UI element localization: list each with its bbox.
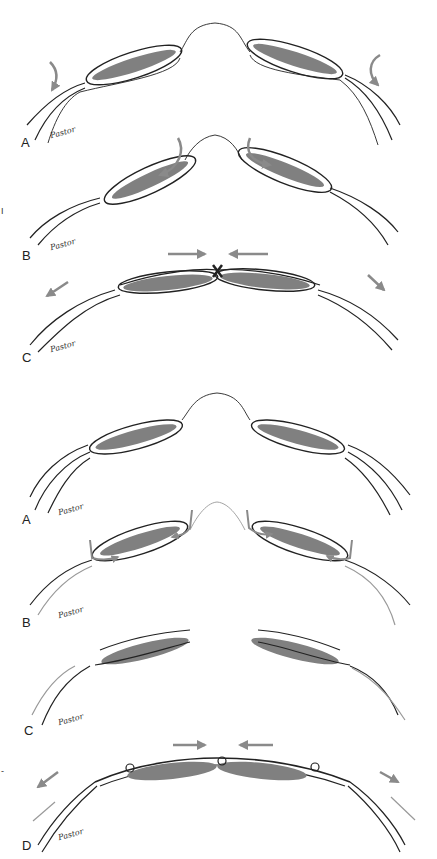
panel-label: B [22, 248, 31, 263]
panel-top-a [27, 23, 400, 145]
side-mark: I [1, 206, 4, 216]
panel-top-c [30, 254, 398, 352]
panel-label: A [21, 135, 30, 150]
panel-label: B [22, 615, 31, 630]
side-mark: - [1, 766, 4, 776]
panel-bottom-c [32, 630, 405, 725]
panel-bottom-d [33, 745, 415, 852]
panel-label: C [22, 350, 31, 365]
panel-label: A [22, 512, 31, 527]
panel-bottom-b [30, 502, 410, 625]
panel-top-b [30, 135, 398, 245]
panel-label: C [24, 723, 33, 738]
panel-label: D [22, 838, 31, 853]
panel-bottom-a [30, 393, 410, 515]
